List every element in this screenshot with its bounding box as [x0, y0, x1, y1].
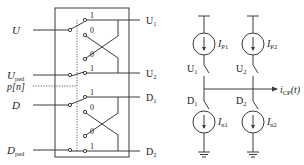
- output-label-icp: iCP(t): [280, 84, 301, 96]
- ground-icon: [198, 152, 210, 157]
- pos-label-1: 1: [90, 142, 94, 151]
- charge-pump-diagram: 1 0 0 1 1 0 0 1 U Uped: [0, 0, 304, 165]
- pos-label-0: 0: [90, 103, 94, 112]
- output-label-d1: D1: [146, 92, 156, 104]
- switch-label-d1: D1: [187, 95, 197, 107]
- ground-icon: [247, 152, 259, 157]
- output-label-u2: U2: [146, 68, 156, 80]
- pos-label-0: 0: [90, 50, 94, 59]
- switch-d1-icon: [204, 101, 209, 109]
- current-source-in2-icon: [242, 111, 264, 133]
- current-source-ip1-icon: [193, 33, 215, 55]
- charge-pump-circuit: IP1 IP2 In1 In2 U1 U2 D1 D2 iCP(t): [187, 16, 301, 157]
- input-label-dped: Dped: [6, 144, 25, 157]
- current-source-ip2-icon: [242, 33, 264, 55]
- input-label-d: D: [11, 99, 20, 111]
- switch-logic-block: 1 0 0 1 1 0 0 1 U Uped: [6, 8, 156, 158]
- output-label-u1: U1: [146, 15, 156, 27]
- pos-label-0: 0: [90, 26, 94, 35]
- switch-label-d2: D2: [236, 95, 246, 107]
- switch-label-u1: U1: [187, 63, 197, 75]
- switch-u2-icon: [253, 65, 258, 73]
- switch-label-u2: U2: [236, 63, 246, 75]
- current-source-in1-icon: [193, 111, 215, 133]
- source-label-ip1: IP1: [217, 38, 228, 50]
- pos-label-1: 1: [90, 11, 94, 20]
- switch-u1-icon: [204, 65, 209, 73]
- source-label-in1: In1: [217, 116, 228, 128]
- output-label-d2: D2: [146, 146, 156, 158]
- input-label-u: U: [12, 24, 21, 36]
- pos-label-1: 1: [90, 64, 94, 73]
- pos-label-1: 1: [90, 88, 94, 97]
- switch-d2-icon: [253, 101, 258, 109]
- source-label-ip2: IP2: [266, 38, 277, 50]
- input-label-pn: p[n]: [6, 81, 25, 92]
- source-label-in2: In2: [266, 116, 277, 128]
- pos-label-0: 0: [90, 127, 94, 136]
